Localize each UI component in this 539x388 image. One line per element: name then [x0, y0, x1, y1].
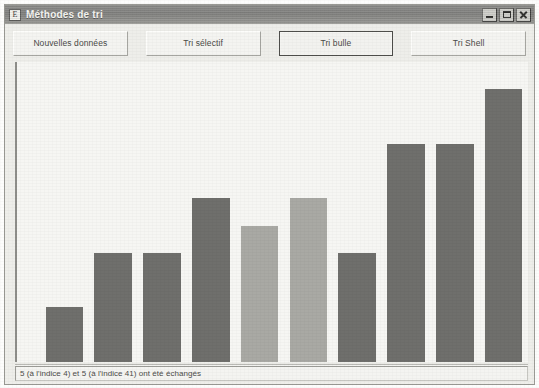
statusbar: 5 (à l'indice 4) et 5 (à l'indice 41) on…: [15, 364, 528, 381]
sort-visualization-canvas: [15, 62, 528, 362]
bar: [94, 253, 132, 362]
bar: [387, 144, 425, 362]
close-icon: [519, 10, 528, 19]
bar-chart: [17, 62, 528, 362]
maximize-icon: [503, 11, 511, 18]
window-titlebar[interactable]: E Méthodes de tri: [5, 5, 534, 24]
bubble-sort-button[interactable]: Tri bulle: [279, 31, 394, 56]
bar: [143, 253, 181, 362]
bar: [485, 89, 523, 362]
status-message: 5 (à l'indice 4) et 5 (à l'indice 41) on…: [20, 369, 201, 378]
bar: [290, 198, 328, 362]
new-data-button[interactable]: Nouvelles données: [13, 31, 128, 56]
status-message-panel: 5 (à l'indice 4) et 5 (à l'indice 41) on…: [15, 366, 528, 381]
bar: [192, 198, 230, 362]
application-window: E Méthodes de tri Nouvelles données Tri …: [4, 4, 535, 385]
bar: [338, 253, 376, 362]
close-button[interactable]: [516, 8, 531, 22]
minimize-button[interactable]: [482, 8, 497, 22]
window-client-area: Nouvelles données Tri sélectif Tri bulle…: [5, 24, 534, 384]
window-controls: [482, 8, 531, 22]
bar: [46, 307, 84, 362]
bar: [241, 226, 279, 363]
shell-sort-button[interactable]: Tri Shell: [411, 31, 526, 56]
app-icon: E: [9, 9, 21, 21]
window-title: Méthodes de tri: [26, 9, 482, 20]
maximize-button[interactable]: [499, 8, 514, 22]
toolbar: Nouvelles données Tri sélectif Tri bulle…: [5, 24, 534, 62]
screenshot-page: E Méthodes de tri Nouvelles données Tri …: [0, 0, 539, 388]
bar: [436, 144, 474, 362]
minimize-icon: [486, 16, 493, 18]
selection-sort-button[interactable]: Tri sélectif: [146, 31, 261, 56]
